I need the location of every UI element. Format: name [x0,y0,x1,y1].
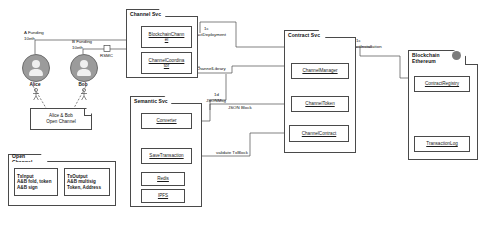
class-redis-label: Redis [157,176,169,181]
note-open-channel-text: Alice & Bob Open Channel [46,113,76,125]
legend-txinput-line2: A&B sign [17,185,51,190]
class-transaction-log-label: TransactionLog [426,141,458,146]
diagram-canvas: A Funding 10eth B Funding 10eth RSMC 1c … [0,0,486,227]
legend-txoutput-line2: Token, Address [67,185,101,190]
actor-label-alice: Alice [15,82,55,87]
class-contract-registry-label: ContractRegistry [425,81,459,86]
avatar-alice [22,54,50,82]
edge-label-rsmc: RSMC [100,53,113,59]
class-transaction-log[interactable]: TransactionLog [414,136,470,152]
note-open-channel: Alice & Bob Open Channel [30,108,92,130]
avatar-body [29,69,43,76]
package-channel-svc-title-text: Channel Svc [130,11,161,17]
package-semantic-svc-title-text: Semantic Svc [134,98,168,104]
class-channel-token[interactable]: ChannelToken [291,96,349,112]
class-converter[interactable]: Converter [141,113,192,129]
class-blockchain-channel-label: BlockchainChann el [149,32,185,42]
stick-figure-bob [79,88,89,102]
edge-label-channel-library: ChannelLibrary [196,66,226,72]
stick-figure-alice [31,88,41,102]
class-save-transaction-label: SaveTransaction [149,153,183,158]
ethereum-logo-icon [452,51,461,60]
class-blockchain-channel[interactable]: BlockchainChann el [141,26,192,48]
avatar-head [32,60,40,68]
edge-label-json-block: JSON Block [228,105,252,111]
legend-txinput-line1: A&B fold, token [17,179,51,184]
legend-txinput-box: TxInput A&B fold, token A&B sign [14,168,58,196]
edge-label-validate-txblock: validate TxBlock [216,150,248,156]
avatar-body [77,69,91,76]
class-converter-label: Converter [156,118,176,123]
class-channel-coordinator[interactable]: ChannelCoordina tor [141,52,192,74]
avatar-bob [70,54,98,82]
class-channel-coordinator-label: ChannelCoordina tor [149,58,185,68]
legend-txoutput-line1: A&B multisig [67,179,101,184]
package-contract-svc-title-text: Contract Svc [288,32,320,38]
legend-txoutput-box: TxOutput A&B multisig Token, Address [64,168,110,196]
class-channel-token-label: ChannelToken [305,101,334,106]
actor-label-bob: Bob [63,82,103,87]
avatar-head [80,60,88,68]
class-contract-registry[interactable]: ContractRegistry [414,76,470,92]
package-blockchain-ethereum-title-text: Blockchain Ethereum [412,52,440,65]
class-redis[interactable]: Redis [141,172,185,186]
class-ipfs[interactable]: IPFS [141,189,185,203]
edge-label-jsonmsg: JSONMsg [206,98,226,104]
class-channel-manager[interactable]: ChannelManager [291,63,349,79]
class-channel-contract[interactable]: ChannelContract [289,125,349,142]
class-channel-contract-label: ChannelContract [302,131,336,136]
class-ipfs-label: IPFS [158,193,168,198]
edge-label-b-funding-amount: 10eth [72,45,83,51]
class-save-transaction[interactable]: SaveTransaction [141,148,192,164]
edge-label-a-funding-amount: 10eth [24,36,35,42]
class-channel-manager-label: ChannelManager [302,68,337,73]
